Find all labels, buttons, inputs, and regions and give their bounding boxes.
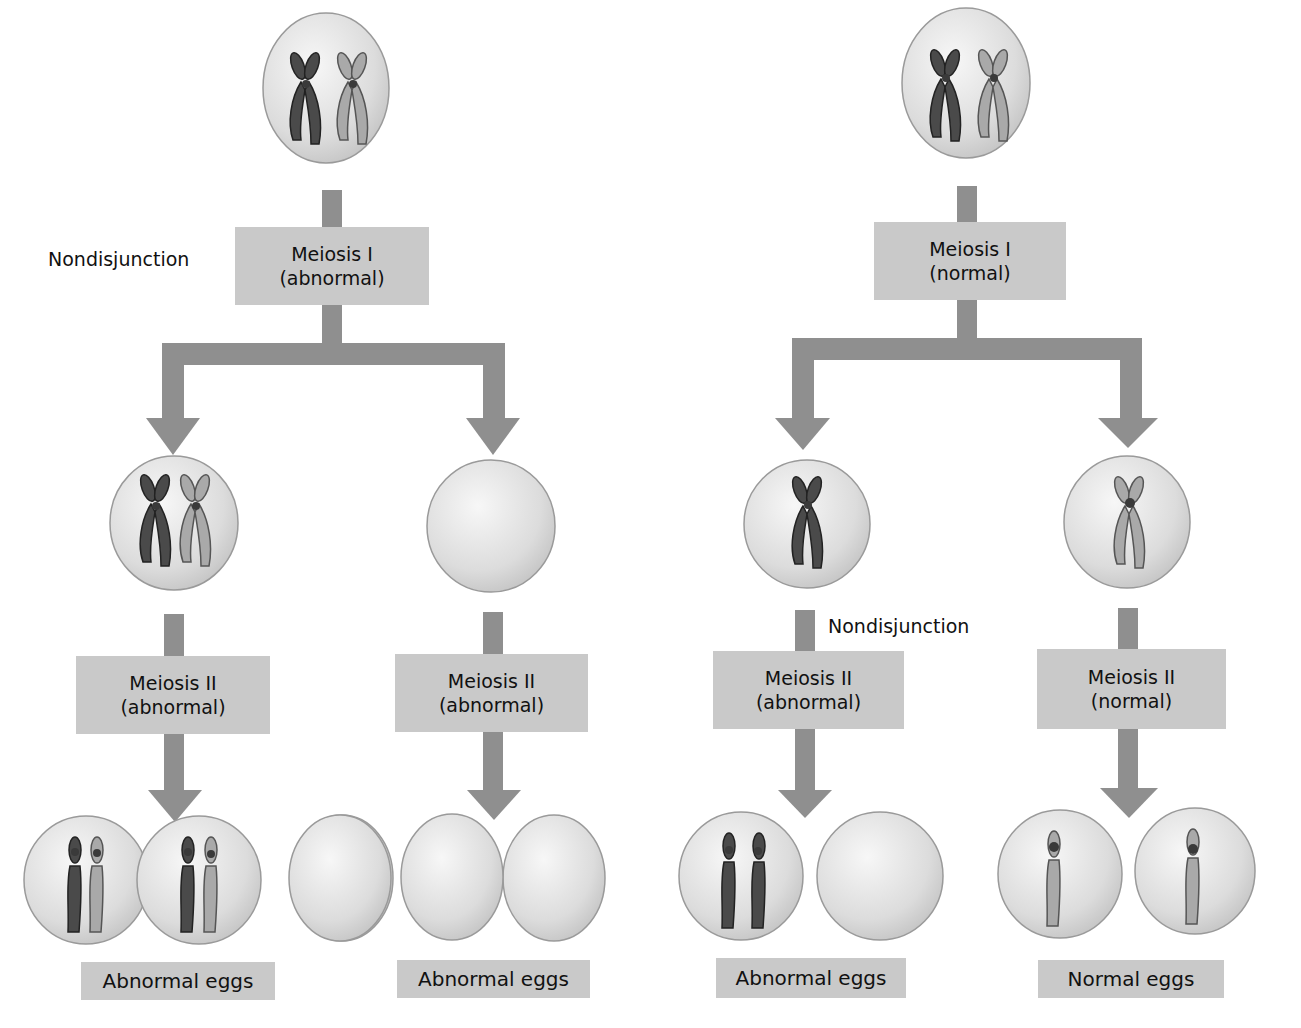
- meiosis2-title: Meiosis II: [439, 669, 544, 693]
- daughter-cell-with-homologs: [110, 456, 238, 590]
- nondisjunction-diagram: [0, 0, 1301, 1028]
- meiosis2-box-right-a: Meiosis II(abnormal): [713, 651, 904, 729]
- arrow-stem: [322, 190, 342, 230]
- meiosis2-title: Meiosis II: [756, 666, 861, 690]
- right-pathway: [679, 8, 1255, 940]
- meiosis2-title: Meiosis II: [120, 671, 225, 695]
- egg-result-label: Abnormal eggs: [81, 962, 275, 1000]
- meiosis1-title-right: Meiosis I: [929, 237, 1011, 261]
- daughter-cell-light-chromosome: [1064, 456, 1190, 588]
- meiosis1-status-left: (abnormal): [279, 266, 384, 290]
- egg-cell: [998, 810, 1122, 938]
- meiosis2-status: (normal): [1088, 689, 1175, 713]
- meiosis1-title-left: Meiosis I: [279, 242, 384, 266]
- nondisjunction-label-left: Nondisjunction: [48, 248, 189, 270]
- meiosis2-status: (abnormal): [120, 695, 225, 719]
- meiosis1-status-right: (normal): [929, 261, 1011, 285]
- branch-arrow-left: [162, 343, 505, 365]
- meiosis2-box-left-b: Meiosis II(abnormal): [395, 654, 588, 732]
- egg-cell: [679, 812, 803, 940]
- parent-cell-left: [263, 13, 389, 163]
- egg-cell-empty: [817, 812, 943, 940]
- egg-cell: [1135, 808, 1255, 934]
- daughter-cell-empty: [427, 460, 555, 592]
- egg-result-label: Normal eggs: [1038, 960, 1224, 998]
- parent-cell-right: [902, 8, 1030, 158]
- meiosis2-status: (abnormal): [756, 690, 861, 714]
- egg-cell-empty: [503, 815, 605, 941]
- branch-arrow-right: [792, 338, 1142, 360]
- meiosis2-status: (abnormal): [439, 693, 544, 717]
- egg-cell: [24, 816, 148, 944]
- left-pathway: [24, 13, 605, 944]
- meiosis2-title: Meiosis II: [1088, 665, 1175, 689]
- egg-cell: [137, 816, 261, 944]
- meiosis2-box-left-a: Meiosis II(abnormal): [76, 656, 270, 734]
- meiosis1-box-right: Meiosis I(normal): [874, 222, 1066, 300]
- egg-result-label: Abnormal eggs: [397, 960, 590, 998]
- egg-result-label: Abnormal eggs: [716, 958, 906, 998]
- meiosis1-box-left: Meiosis I(abnormal): [235, 227, 429, 305]
- daughter-cell-dark-chromosome: [744, 460, 870, 588]
- nondisjunction-label-right: Nondisjunction: [828, 615, 969, 637]
- meiosis2-box-right-b: Meiosis II(normal): [1037, 649, 1226, 729]
